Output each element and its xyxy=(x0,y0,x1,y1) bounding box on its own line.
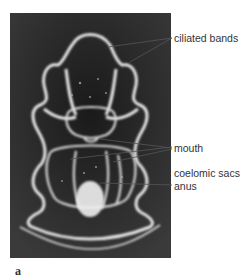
larva-illustration xyxy=(10,13,171,258)
larva-micrograph xyxy=(10,13,171,258)
label-coelomic-sacs: coelomic sacs xyxy=(174,168,240,179)
label-mouth: mouth xyxy=(174,143,203,154)
label-anus: anus xyxy=(174,181,197,192)
label-ciliated-bands: ciliated bands xyxy=(174,33,238,44)
panel-letter: a xyxy=(15,264,21,279)
